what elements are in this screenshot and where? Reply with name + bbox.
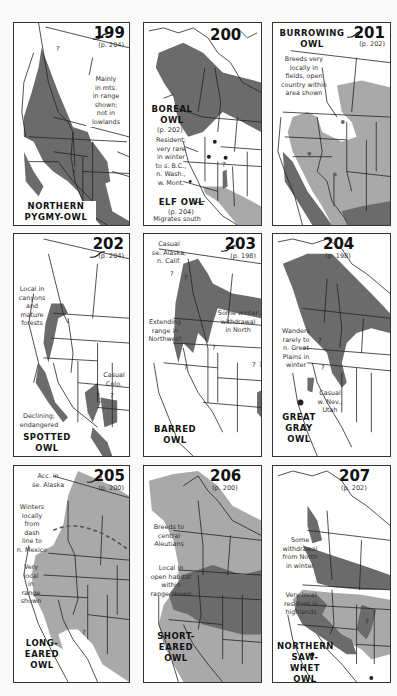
uncertain-marker: ? xyxy=(212,344,216,352)
range-map-203 xyxy=(144,234,261,456)
species-title-elf: ELF OWL xyxy=(154,197,209,208)
uncertain-marker: ? xyxy=(82,629,86,637)
map-panel-207: 207 (p. 202) Somewithdrawalfrom Northin … xyxy=(272,465,391,683)
range-map-201 xyxy=(273,23,390,225)
uncertain-marker: ? xyxy=(365,618,369,626)
uncertain-marker: ? xyxy=(110,392,114,400)
range-note-status: Declining;endangered xyxy=(15,412,63,429)
uncertain-marker: ? xyxy=(321,364,325,372)
species-title: LONG-EAREDOWL xyxy=(22,638,62,671)
species-title: NORTHERNSAW-WHETOWL xyxy=(277,641,333,683)
range-note-winters: Winterslocallyfromdashline ton. Mexico xyxy=(15,503,49,555)
range-note-withdrawal: Some winterwithdrawalin North xyxy=(214,309,262,335)
map-panel-202: 202 (p. 204) Local incanyonsandmaturefor… xyxy=(13,233,130,457)
species-title-boreal: BOREALOWL xyxy=(147,104,197,126)
uncertain-marker: ? xyxy=(259,361,262,369)
species-title: GREATGRAYOWL xyxy=(277,412,321,445)
page-reference: (p. 204) xyxy=(98,42,124,49)
map-panel-199: 199 (p. 204) Mainlyin mts.in rangeshown;… xyxy=(13,22,130,226)
page-reference: (p. 202) xyxy=(341,485,367,492)
uncertain-marker: ? xyxy=(184,274,188,282)
range-note: Breeds verylocally infields, opencountry… xyxy=(275,55,333,98)
map-panel-200: 200 BOREALOWL (p. 202) Resident;very rar… xyxy=(143,22,262,226)
map-number: 205 xyxy=(94,469,125,484)
species-title: BURROWINGOWL xyxy=(277,28,347,50)
range-note-local: Verylocalinrangeshown xyxy=(16,563,46,606)
species-title: SPOTTEDOWL xyxy=(22,432,72,454)
page-reference: (p. 198) xyxy=(230,253,256,260)
page-reference: (p. 200) xyxy=(212,485,238,492)
range-note-withdrawal: Somewithdrawalfrom Northin winter xyxy=(275,536,325,570)
map-number: 199 xyxy=(94,26,125,41)
uncertain-marker: ? xyxy=(184,364,188,372)
range-note-extending: Extendingrange inNorthwest xyxy=(145,318,185,344)
uncertain-marker: ? xyxy=(318,337,322,345)
page-reference: (p. 200) xyxy=(98,485,124,492)
range-note-casual: Casualw. Nev.,Utah xyxy=(313,389,347,415)
page-reference-boreal: (p. 202) xyxy=(157,127,183,134)
map-number: 204 xyxy=(323,237,354,252)
range-note-elf: Migrates southin winter xyxy=(146,215,208,226)
uncertain-marker: ? xyxy=(170,270,174,278)
map-number: 203 xyxy=(225,237,256,252)
map-number: 206 xyxy=(210,469,241,484)
map-panel-201: BURROWINGOWL 201 (p. 202) Breeds veryloc… xyxy=(272,22,391,226)
page-reference: (p. 198) xyxy=(325,253,351,260)
range-note-boreal: Resident;very rarein winterto s. B.C.,n.… xyxy=(146,136,196,188)
range-note-habitat: Local incanyonsandmatureforests xyxy=(15,285,49,328)
range-note-highlands: Very localresident inhighlands xyxy=(275,591,327,617)
map-number: 207 xyxy=(339,469,370,484)
species-title: SHORT-EAREDOWL xyxy=(154,631,198,664)
map-number: 200 xyxy=(210,28,241,43)
uncertain-marker: ? xyxy=(56,45,60,53)
range-note-aleutians: Breeds tocentralAleutians xyxy=(147,523,191,549)
species-title: NORTHERNPYGMY-OWL xyxy=(16,201,96,223)
species-title: BARREDOWL xyxy=(150,424,200,446)
map-panel-206: 206 (p. 200) Breeds tocentralAleutians L… xyxy=(143,465,262,683)
page-reference: (p. 202) xyxy=(359,41,385,48)
map-panel-205: 205 (p. 200) Acc. inse. Alaska Winterslo… xyxy=(13,465,130,683)
map-number: 202 xyxy=(93,237,124,252)
uncertain-marker: ? xyxy=(252,361,256,369)
uncertain-marker: ? xyxy=(96,392,100,400)
range-note-wanders: Wandersrarely ton. GreatPlains inwinter xyxy=(275,327,317,370)
range-note-habitat: Local inopen habitatwithinrange shown xyxy=(146,564,196,598)
map-number: 201 xyxy=(354,26,385,41)
range-note-casual: CasualColo. xyxy=(98,371,130,388)
uncertain-marker: ? xyxy=(72,169,76,177)
map-panel-203: 203 (p. 198) Casualse. Alaska,n. Calif. … xyxy=(143,233,262,457)
range-note-accidental: Acc. inse. Alaska xyxy=(28,472,68,489)
uncertain-marker: ? xyxy=(222,161,226,169)
map-panel-204: 204 (p. 198) Wandersrarely ton. GreatPla… xyxy=(272,233,391,457)
range-note: Mainlyin mts.in rangeshown;not inlowland… xyxy=(86,75,126,127)
page-reference: (p. 204) xyxy=(98,253,124,260)
range-note-casual: Casualse. Alaska,n. Calif. xyxy=(147,240,191,266)
